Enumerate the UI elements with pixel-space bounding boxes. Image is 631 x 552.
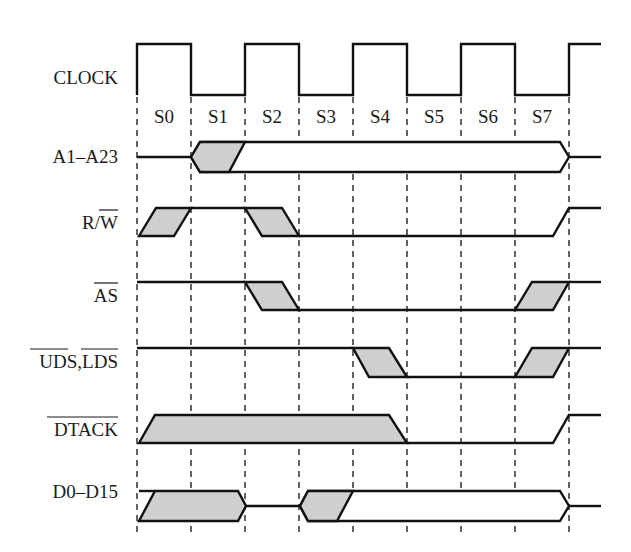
state-label-s2: S2	[262, 106, 282, 127]
as-label-text: AS	[94, 285, 118, 306]
state-labels: S0 S1 S2 S3 S4 S5 S6 S7	[152, 104, 552, 127]
state-label-s3: S3	[316, 106, 336, 127]
lds-part: LDS	[82, 351, 118, 372]
address-valid-bus	[191, 142, 569, 172]
as-waveform	[137, 282, 601, 310]
rw-r-part: R/	[82, 212, 101, 233]
uds-transition-shade	[515, 348, 569, 377]
rw-transition-shade	[139, 208, 191, 236]
signal-label-clock: CLOCK	[54, 67, 119, 88]
state-label-s0: S0	[154, 106, 174, 127]
state-label-s6: S6	[478, 106, 498, 127]
state-label-s7: S7	[532, 106, 552, 127]
signal-label-dtack: DTACK	[47, 417, 118, 440]
svg-text:UDS,LDS: UDS,LDS	[39, 351, 118, 372]
signal-label-uds-lds: UDS,LDS	[30, 349, 118, 372]
uds-lds-waveform	[137, 348, 601, 377]
rw-low-line	[299, 208, 601, 236]
data-undefined-shade	[139, 491, 246, 521]
rw-transition-shade	[245, 208, 299, 236]
rw-waveform	[139, 208, 601, 236]
data-waveform	[139, 491, 601, 521]
signal-label-rw: R/W	[82, 210, 118, 233]
dtack-undefined-shade	[139, 415, 407, 443]
state-label-s4: S4	[370, 106, 391, 127]
state-label-s1: S1	[208, 106, 228, 127]
signal-label-data: D0–D15	[53, 481, 118, 502]
dtack-low-line	[407, 415, 601, 443]
clock-waveform	[137, 44, 601, 95]
uds-transition-shade	[353, 348, 407, 377]
signal-label-address: A1–A23	[53, 146, 118, 167]
signal-labels: CLOCK A1–A23 R/W AS UDS,LDS DTACK D0–D15	[30, 67, 118, 502]
as-transition-shade	[515, 282, 569, 310]
dtack-waveform	[139, 415, 601, 443]
svg-text:R/W: R/W	[82, 212, 118, 233]
dtack-label-text: DTACK	[54, 419, 118, 440]
as-transition-shade	[245, 282, 299, 310]
signal-label-as: AS	[94, 283, 118, 306]
state-label-s5: S5	[424, 106, 444, 127]
timing-diagram: S0 S1 S2 S3 S4 S5 S6 S7 CLOCK A1–A23 R/W…	[0, 0, 631, 552]
address-waveform	[137, 142, 601, 172]
uds-part: UDS	[39, 351, 77, 372]
rw-w-part: W	[100, 212, 118, 233]
